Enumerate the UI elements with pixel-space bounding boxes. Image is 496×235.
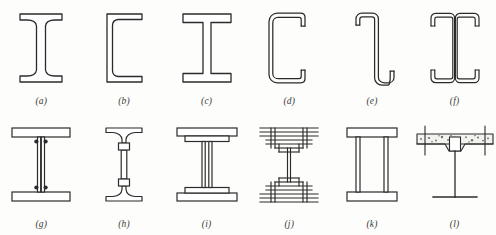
figure-item-a: (a) — [1, 2, 81, 110]
cold-formed-lipped-zed-icon — [332, 2, 412, 94]
welded-plate-girder-with-cover-plates-icon — [167, 112, 247, 218]
figure-label-d: (d) — [283, 94, 295, 110]
rolled-i-beam-tapered-flange-icon — [1, 2, 81, 94]
wide-flange-h-beam-icon — [167, 2, 247, 94]
figure-item-b: (b) — [84, 2, 164, 110]
figure-label-h: (h) — [118, 218, 130, 232]
figure-label-f: (f) — [450, 94, 460, 110]
composite-beam-with-concrete-slab-icon — [415, 112, 495, 218]
figure-item-j: (j) — [249, 112, 329, 232]
figure-label-k: (k) — [366, 218, 377, 232]
figure-item-g: (g) — [1, 112, 81, 232]
figure-item-c: (c) — [167, 2, 247, 110]
castellated-tee-and-web-beam-icon — [84, 112, 164, 218]
figure-label-i: (i) — [202, 218, 212, 232]
rolled-channel-section-icon — [84, 2, 164, 94]
figure-item-e: (e) — [332, 2, 412, 110]
figure-row-top: (a) (b) (c) — [0, 2, 496, 110]
figure-label-j: (j) — [285, 218, 295, 232]
figure-row-bottom: (g) (h) — [0, 112, 496, 232]
figure-label-c: (c) — [201, 94, 212, 110]
figure-item-h: (h) — [84, 112, 164, 232]
figure-item-f: (f) — [415, 2, 495, 110]
figure-item-d: (d) — [249, 2, 329, 110]
cold-formed-lipped-channel-icon — [249, 2, 329, 94]
figure-item-l: (l) — [415, 112, 495, 232]
built-up-riveted-girder-cover-plates-icon — [249, 112, 329, 218]
figure-label-g: (g) — [35, 218, 47, 232]
riveted-plate-girder-with-angles-icon — [1, 112, 81, 218]
figure-item-i: (i) — [167, 112, 247, 232]
beam-cross-section-figure: (a) (b) (c) — [0, 0, 496, 235]
figure-label-a: (a) — [35, 94, 47, 110]
figure-label-e: (e) — [366, 94, 377, 110]
figure-item-k: (k) — [332, 112, 412, 232]
welded-box-girder-icon — [332, 112, 412, 218]
figure-label-l: (l) — [450, 218, 460, 232]
back-to-back-double-channel-icon — [415, 2, 495, 94]
figure-label-b: (b) — [118, 94, 130, 110]
